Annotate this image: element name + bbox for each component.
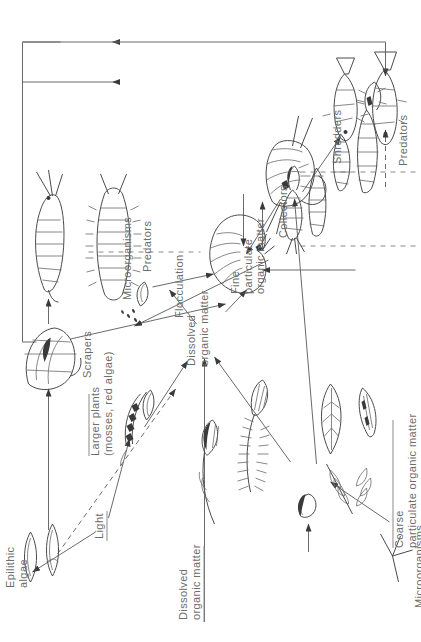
bark-fragment-illustration [359, 388, 376, 437]
arrow-light-to-epilithic-algae [32, 532, 95, 572]
label-flocculation: Flocculation [172, 255, 185, 319]
label-fine-particulate-organic-matter: Fine particulate organic matter [228, 218, 266, 294]
diagram-page: Light Epilithic algae Larger plants (mos… [0, 0, 421, 642]
label-scrapers: Scrapers [80, 331, 93, 378]
predator-larva-illustration [35, 170, 63, 302]
label-microorganisms-fungi: Microorganisms, e.g. Hyphomycete fungi [412, 484, 421, 608]
label-dissolved-organic-matter-mid: Dissolved organic matter [184, 290, 209, 366]
compound-leaf-illustration [326, 464, 371, 514]
ovate-leaf-illustration [321, 384, 341, 454]
label-predators-invertebrate: Predators [140, 221, 153, 272]
label-collectors: Collectors [276, 185, 289, 238]
label-microorganisms: Microorganisms [120, 217, 133, 300]
shredder-caddis-illustration [356, 82, 386, 193]
scraper-snail-illustration [24, 328, 81, 390]
label-light: Light [92, 513, 105, 539]
cpom-illustration [199, 380, 376, 524]
rule-light [106, 511, 107, 541]
collector-tube-illustration [308, 168, 326, 236]
label-predators-fish: Predators [396, 115, 409, 166]
rule-larger-plants [88, 394, 89, 456]
epilithic-algae-illustration [24, 524, 58, 582]
predator-fish-illustration [322, 58, 364, 141]
rule-cpom [392, 420, 393, 548]
diagram-canvas: Light Epilithic algae Larger plants (mos… [0, 0, 421, 642]
rule-dom-left [203, 546, 204, 622]
label-dissolved-organic-matter-left: Dissolved organic matter [176, 544, 201, 620]
conifer-branch-illustration [237, 380, 269, 492]
twig-illustration [199, 420, 218, 524]
acorn-illustration [298, 494, 316, 517]
diagram-artwork [0, 0, 421, 642]
arrow-epilithic-algae-to-dom [57, 389, 175, 554]
label-shredders: Shredders [330, 110, 343, 164]
label-epilithic-algae: Epilithic algae [3, 546, 28, 588]
